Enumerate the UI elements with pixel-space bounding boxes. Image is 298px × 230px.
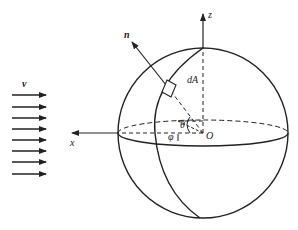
- sphere-flow-diagram: v z x n dA θ φ O: [0, 0, 298, 230]
- area-element-label: dA: [187, 74, 199, 85]
- flow-arrows: [12, 95, 46, 174]
- normal-label: n: [124, 29, 130, 40]
- theta-label: θ: [180, 119, 185, 130]
- theta-arc: [187, 117, 190, 133]
- radius-to-dA: [170, 90, 203, 133]
- phi-label: φ: [168, 131, 174, 142]
- velocity-label: v: [22, 78, 27, 89]
- normal-vector: [132, 42, 170, 90]
- origin-label: O: [206, 130, 213, 141]
- z-axis-label: z: [207, 9, 212, 20]
- equator-front: [118, 133, 288, 146]
- x-axis-label: x: [69, 137, 75, 148]
